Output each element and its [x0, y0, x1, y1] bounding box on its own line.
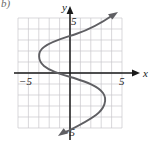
- graph-figure: b): [0, 0, 155, 146]
- x-tick-label-positive-five: 5: [119, 75, 125, 87]
- y-axis-label: y: [61, 1, 67, 13]
- coordinate-plane: −5 5 5 −5 x y: [0, 0, 155, 146]
- y-axis-arrowhead: [67, 6, 74, 14]
- axes: [14, 6, 140, 140]
- part-label: b): [1, 0, 17, 9]
- curve-path: [39, 15, 113, 133]
- y-tick-label-positive-five: 5: [71, 15, 77, 27]
- plotted-curve: [39, 12, 118, 136]
- x-tick-label-negative-five: −5: [19, 75, 32, 87]
- x-axis-label: x: [142, 67, 148, 79]
- x-axis-arrowhead: [132, 70, 140, 77]
